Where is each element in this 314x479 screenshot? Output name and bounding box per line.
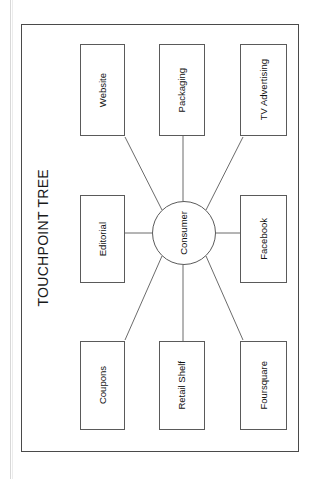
node-tv-advertising[interactable]: TV Advertising <box>240 44 287 136</box>
node-consumer-hub[interactable]: Consumer <box>152 201 216 265</box>
node-consumer-label: Consumer <box>179 211 189 255</box>
node-website-label: Website <box>98 73 108 107</box>
node-website[interactable]: Website <box>80 44 125 136</box>
node-coupons[interactable]: Coupons <box>80 341 125 430</box>
sheet-edge-left <box>10 0 11 479</box>
node-packaging-label: Packaging <box>177 68 187 112</box>
page-title: TOUCHPOINT TREE <box>21 24 65 452</box>
node-foursquare[interactable]: Foursquare <box>240 341 287 430</box>
node-coupons-label: Coupons <box>98 366 108 404</box>
node-facebook-label: Facebook <box>259 218 269 260</box>
sheet-edge-left-2 <box>12 0 13 479</box>
node-foursquare-label: Foursquare <box>259 361 269 410</box>
page-title-label: TOUCHPOINT TREE <box>36 169 50 307</box>
node-editorial[interactable]: Editorial <box>80 195 125 283</box>
node-editorial-label: Editorial <box>98 222 108 256</box>
node-retail-shelf[interactable]: Retail Shelf <box>159 341 205 430</box>
node-tv-advertising-label: TV Advertising <box>259 59 269 120</box>
node-packaging[interactable]: Packaging <box>159 44 205 136</box>
diagram-page: TOUCHPOINT TREE Website Packaging <box>0 0 314 479</box>
node-facebook[interactable]: Facebook <box>240 195 287 283</box>
node-retail-shelf-label: Retail Shelf <box>177 361 187 410</box>
